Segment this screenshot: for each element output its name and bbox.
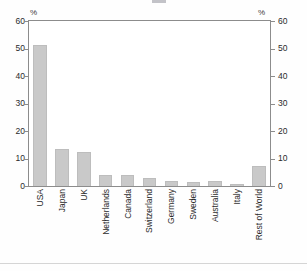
- y-tick-mark-left: [24, 49, 28, 50]
- y-axis-unit-label-left: %: [30, 8, 37, 17]
- x-label-slot: Germany: [160, 189, 182, 267]
- y-axis-unit-label-right: %: [258, 8, 265, 17]
- y-tick-mark-left: [24, 159, 28, 160]
- y-tick-label-left: 0: [3, 182, 25, 191]
- bar-slot: [143, 21, 157, 186]
- bar-slot: [55, 21, 69, 186]
- y-tick-label-left: 40: [3, 72, 25, 81]
- bar-slot: [230, 21, 244, 186]
- bar: [187, 182, 201, 186]
- bar-slot: [99, 21, 113, 186]
- bar: [143, 178, 157, 186]
- x-label-slot: Rest of World: [248, 189, 270, 267]
- x-axis-label: Sweden: [189, 189, 198, 220]
- y-tick-label-right: 60: [278, 17, 300, 26]
- bar: [33, 45, 47, 186]
- x-label-slot: USA: [29, 189, 51, 267]
- x-axis-label: USA: [35, 189, 44, 206]
- y-tick-label-left: 30: [3, 99, 25, 108]
- x-axis-label: Rest of World: [255, 189, 264, 240]
- bar-slot: [187, 21, 201, 186]
- x-label-slot: Netherlands: [95, 189, 117, 267]
- bar: [230, 184, 244, 186]
- y-tick-label-right: 30: [278, 99, 300, 108]
- y-tick-mark-left: [24, 131, 28, 132]
- x-label-slot: Switzerland: [139, 189, 161, 267]
- bar: [121, 175, 135, 186]
- y-tick-label-right: 40: [278, 72, 300, 81]
- clipped-title-artifact: [152, 0, 166, 3]
- x-label-slot: Canada: [117, 189, 139, 267]
- y-tick-mark-left: [24, 21, 28, 22]
- bar: [77, 152, 91, 186]
- bar: [252, 166, 266, 186]
- page-divider: [0, 263, 307, 264]
- x-label-slot: Australia: [204, 189, 226, 267]
- y-tick-label-left: 60: [3, 17, 25, 26]
- y-tick-mark-left: [24, 186, 28, 187]
- y-tick-label-right: 10: [278, 154, 300, 163]
- bar-slot: [252, 21, 266, 186]
- x-axis-category-labels: USAJapanUKNetherlandsCanadaSwitzerlandGe…: [29, 189, 270, 267]
- x-label-slot: Japan: [51, 189, 73, 267]
- y-tick-mark-right: [271, 159, 275, 160]
- y-tick-mark-right: [271, 104, 275, 105]
- y-tick-mark-right: [271, 131, 275, 132]
- bar-slot: [33, 21, 47, 186]
- bars-group: [29, 21, 270, 186]
- bar-slot: [165, 21, 179, 186]
- y-tick-mark-left: [24, 76, 28, 77]
- x-axis-label: Switzerland: [145, 189, 154, 233]
- x-axis-label: Italy: [233, 189, 242, 205]
- x-axis-label: Germany: [167, 189, 176, 224]
- bar: [99, 175, 113, 186]
- y-tick-mark-right: [271, 49, 275, 50]
- y-tick-label-right: 20: [278, 127, 300, 136]
- y-tick-label-right: 0: [278, 182, 300, 191]
- bar-slot: [121, 21, 135, 186]
- bar-slot: [77, 21, 91, 186]
- x-label-slot: Italy: [226, 189, 248, 267]
- y-tick-mark-right: [271, 76, 275, 77]
- bar: [208, 181, 222, 186]
- bar-chart-figure: % % 00101020203030404050506060 USAJapanU…: [0, 0, 307, 271]
- y-tick-mark-right: [271, 21, 275, 22]
- bar: [55, 149, 69, 186]
- x-axis-label: Australia: [211, 189, 220, 222]
- x-axis-label: Netherlands: [101, 189, 110, 235]
- y-tick-mark-left: [24, 104, 28, 105]
- x-axis-label: Japan: [57, 189, 66, 212]
- x-label-slot: Sweden: [182, 189, 204, 267]
- y-tick-mark-right: [271, 186, 275, 187]
- y-tick-label-left: 20: [3, 127, 25, 136]
- x-axis-label: Canada: [123, 189, 132, 219]
- y-tick-label-left: 50: [3, 44, 25, 53]
- bar: [165, 181, 179, 186]
- y-tick-label-left: 10: [3, 154, 25, 163]
- x-label-slot: UK: [73, 189, 95, 267]
- x-axis-label: UK: [79, 189, 88, 201]
- bar-slot: [208, 21, 222, 186]
- y-tick-label-right: 50: [278, 44, 300, 53]
